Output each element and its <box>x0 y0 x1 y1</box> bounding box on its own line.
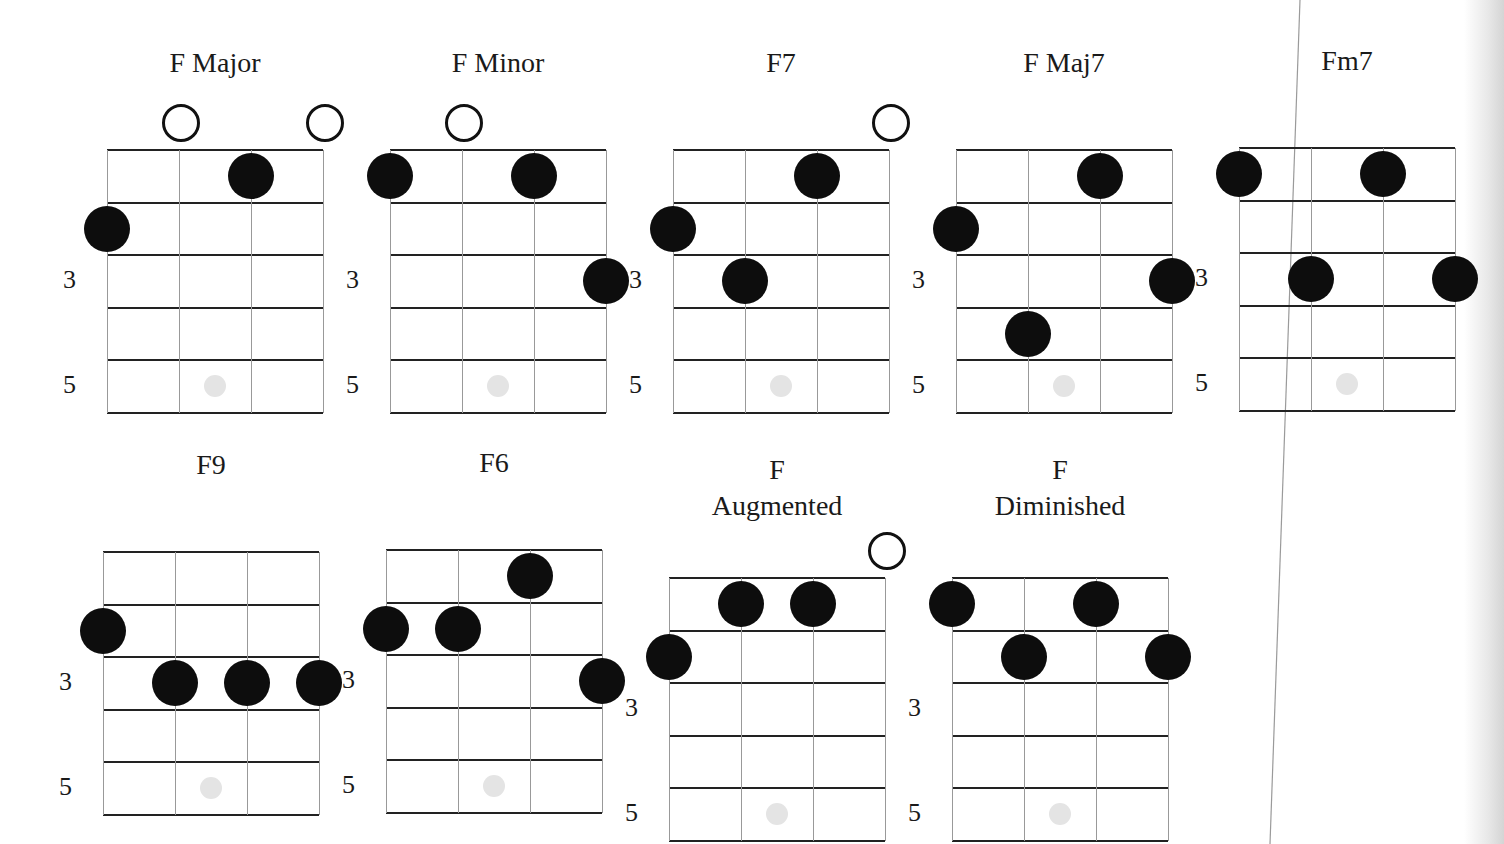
chord-title: F Minor <box>390 45 606 81</box>
fret-line <box>107 149 323 151</box>
finger-dot <box>84 206 130 252</box>
fret-line <box>386 759 602 761</box>
chord-title: Fm7 <box>1239 43 1455 79</box>
fret-line <box>386 654 602 656</box>
finger-dot <box>367 153 413 199</box>
string-line <box>956 150 957 413</box>
fret-line <box>1239 410 1455 412</box>
string-line <box>458 550 459 813</box>
fret-line <box>669 735 885 737</box>
fret-line <box>669 577 885 579</box>
fret-line <box>673 149 889 151</box>
finger-dot <box>1432 256 1478 302</box>
fret-number: 5 <box>625 798 638 828</box>
fret-line <box>107 254 323 256</box>
finger-dot <box>80 608 126 654</box>
fret-line <box>1239 357 1455 359</box>
fret-number: 3 <box>63 265 76 295</box>
open-string-icon <box>868 532 906 570</box>
finger-dot <box>224 660 270 706</box>
finger-dot <box>1073 581 1119 627</box>
fret-line <box>1239 200 1455 202</box>
fret-line <box>103 551 319 553</box>
finger-dot <box>435 606 481 652</box>
chord-title: F7 <box>673 45 889 81</box>
string-line <box>885 578 886 841</box>
fret-line <box>952 630 1168 632</box>
chord-title-line: Fm7 <box>1239 43 1455 79</box>
finger-dot <box>650 206 696 252</box>
finger-dot <box>152 660 198 706</box>
fret-line <box>103 709 319 711</box>
finger-dot <box>794 153 840 199</box>
string-line <box>179 150 180 413</box>
chord-title-line: F <box>952 452 1168 488</box>
string-line <box>889 150 890 413</box>
fret-line <box>103 656 319 658</box>
fret-marker-dot <box>483 775 505 797</box>
chord-title: FDiminished <box>952 452 1168 524</box>
string-line <box>673 150 674 413</box>
fret-number: 5 <box>342 770 355 800</box>
fret-line <box>1239 305 1455 307</box>
fret-line <box>956 359 1172 361</box>
fret-marker-dot <box>200 777 222 799</box>
fret-line <box>1239 147 1455 149</box>
finger-dot <box>1145 634 1191 680</box>
fret-line <box>107 359 323 361</box>
open-string-icon <box>872 104 910 142</box>
chord-title: FAugmented <box>669 452 885 524</box>
finger-dot <box>929 581 975 627</box>
fret-line <box>669 630 885 632</box>
fret-line <box>956 149 1172 151</box>
fret-marker-dot <box>1049 803 1071 825</box>
fret-line <box>107 412 323 414</box>
finger-dot <box>583 258 629 304</box>
fret-line <box>1239 252 1455 254</box>
page-edge <box>1464 0 1504 844</box>
finger-dot <box>1077 153 1123 199</box>
fret-number: 3 <box>908 693 921 723</box>
finger-dot <box>507 553 553 599</box>
fret-line <box>390 359 606 361</box>
finger-dot <box>511 153 557 199</box>
string-line <box>1028 150 1029 413</box>
fret-line <box>952 735 1168 737</box>
chord-title-line: F7 <box>673 45 889 81</box>
fret-number: 5 <box>1195 368 1208 398</box>
fret-line <box>673 359 889 361</box>
chord-title-line: F Minor <box>390 45 606 81</box>
fret-number: 5 <box>59 772 72 802</box>
string-line <box>103 552 104 815</box>
string-line <box>462 150 463 413</box>
fret-line <box>669 787 885 789</box>
fret-number: 5 <box>912 370 925 400</box>
fret-line <box>669 840 885 842</box>
fret-line <box>952 840 1168 842</box>
chord-title: F Major <box>107 45 323 81</box>
string-line <box>107 150 108 413</box>
finger-dot <box>363 606 409 652</box>
finger-dot <box>722 258 768 304</box>
fret-line <box>390 149 606 151</box>
fret-number: 3 <box>629 265 642 295</box>
fret-line <box>103 761 319 763</box>
fret-line <box>673 307 889 309</box>
fret-number: 3 <box>342 665 355 695</box>
fret-line <box>103 814 319 816</box>
fret-line <box>386 707 602 709</box>
fret-number: 5 <box>908 798 921 828</box>
fret-line <box>107 202 323 204</box>
chord-title-line: F <box>669 452 885 488</box>
finger-dot <box>718 581 764 627</box>
finger-dot <box>1001 634 1047 680</box>
string-line <box>386 550 387 813</box>
fret-line <box>390 254 606 256</box>
string-line <box>1024 578 1025 841</box>
string-line <box>323 150 324 413</box>
finger-dot <box>579 658 625 704</box>
fret-line <box>386 812 602 814</box>
finger-dot <box>790 581 836 627</box>
finger-dot <box>1288 256 1334 302</box>
fret-line <box>956 307 1172 309</box>
